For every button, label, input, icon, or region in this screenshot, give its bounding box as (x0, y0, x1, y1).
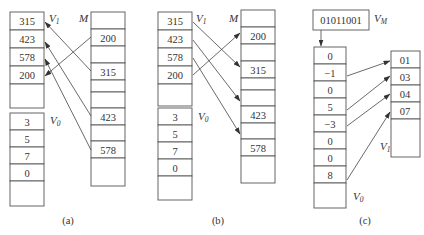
v1-cell: 578 (19, 52, 35, 63)
v0-cell: 0 (24, 168, 29, 179)
v1-cell: 315 (167, 16, 183, 27)
v1-cell: 200 (167, 70, 183, 81)
v1-label: V1 (49, 12, 59, 26)
memory-label: M (78, 12, 89, 24)
panel-c: 01011001 VM 0 −1 0 5 −3 0 0 8 V0 (313, 10, 420, 227)
memory-cell: 315 (250, 65, 266, 76)
memory-cell: 578 (250, 143, 266, 154)
panel-caption: (b) (212, 215, 225, 227)
v1-cell: 200 (19, 70, 35, 81)
gather-arrows (45, 22, 91, 150)
v0-cell: 7 (24, 151, 29, 162)
memory-cell: 423 (250, 110, 266, 121)
panel-caption: (a) (62, 215, 74, 227)
v0-cell: 0 (327, 51, 332, 62)
v0-cell: −3 (324, 119, 335, 130)
v1-register: 315 423 578 200 V1 (158, 12, 206, 106)
v0-label: V0 (50, 114, 61, 128)
memory-cell: 578 (100, 145, 116, 156)
v0-cell: −1 (324, 68, 335, 79)
panel-b: 315 423 578 200 V1 3 5 7 0 V0 (158, 10, 275, 227)
v0-label: V0 (353, 190, 364, 204)
memory-column: 200 315 423 578 M (228, 10, 275, 183)
memory-label: M (228, 12, 239, 24)
vm-mask-register: 01011001 VM (313, 10, 388, 30)
v0-cell: 8 (327, 170, 332, 181)
v1-cell: 07 (400, 106, 411, 117)
v0-register: 3 5 7 0 V0 (10, 113, 61, 206)
memory-cell: 200 (100, 33, 116, 44)
v1-cell: 423 (19, 34, 35, 45)
v0-cell: 5 (327, 102, 332, 113)
v0-register: 3 5 7 0 V0 (158, 108, 209, 200)
v0-register: 0 −1 0 5 −3 0 0 8 V0 (314, 47, 364, 208)
v1-label: V1 (196, 12, 206, 26)
memory-cell: 315 (100, 67, 116, 78)
v1-cell: 423 (167, 34, 183, 45)
v1-cell: 578 (167, 52, 183, 63)
v0-cell: 7 (172, 146, 177, 157)
mask-value: 01011001 (320, 15, 362, 26)
memory-cell: 423 (100, 112, 116, 123)
v1-register: 01 03 04 07 V1 (380, 51, 420, 157)
compress-arrows (347, 61, 390, 180)
vm-label: VM (374, 12, 388, 26)
v0-cell: 0 (327, 136, 332, 147)
v0-cell: 3 (24, 117, 29, 128)
v0-cell: 5 (172, 129, 177, 140)
v0-label: V0 (198, 110, 209, 124)
v0-cell: 5 (24, 134, 29, 145)
v0-cell: 0 (327, 153, 332, 164)
memory-cell: 200 (250, 31, 266, 42)
v1-register: 315 423 578 200 V1 (10, 12, 59, 108)
v0-cell: 3 (172, 112, 177, 123)
v0-cell: 0 (172, 163, 177, 174)
v1-cell: 03 (400, 72, 411, 83)
v1-cell: 04 (400, 89, 411, 100)
panel-caption: (c) (359, 215, 371, 227)
v0-cell: 0 (327, 85, 332, 96)
vector-gather-scatter-compress-diagram: 315 423 578 200 V1 3 5 7 0 V0 (0, 0, 424, 235)
panel-a: 315 423 578 200 V1 3 5 7 0 V0 (10, 12, 125, 227)
memory-column: 200 315 423 578 M (78, 12, 125, 186)
v1-cell: 01 (400, 55, 411, 66)
v1-cell: 315 (19, 16, 35, 27)
v1-label: V1 (380, 140, 390, 154)
